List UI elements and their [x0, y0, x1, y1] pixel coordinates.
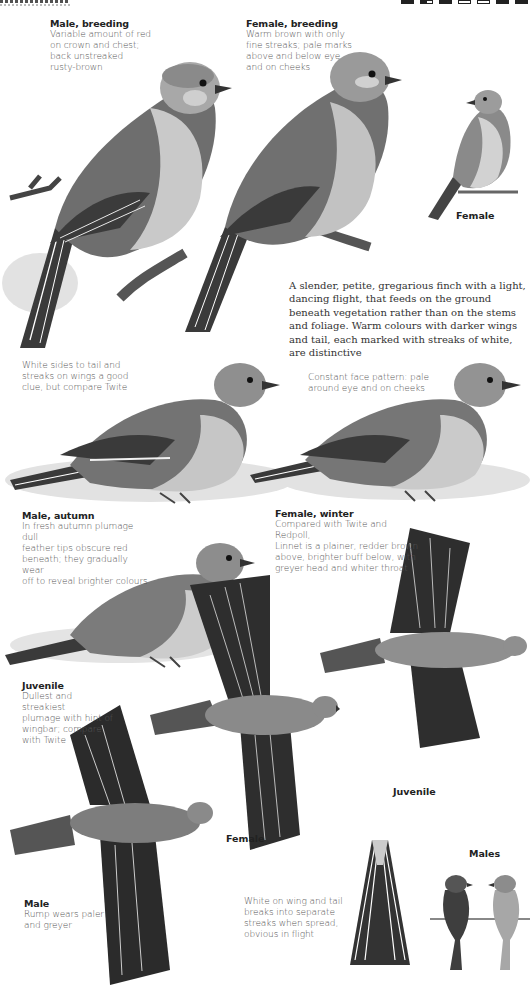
label-males: Males — [469, 848, 500, 859]
caption-body: In fresh autumn plumage dull feather tip… — [22, 521, 152, 587]
caption-title: Female, winter — [275, 508, 420, 519]
range-icon — [496, 0, 509, 4]
field-guide-page: Male, breeding Variable amount of red on… — [0, 0, 530, 988]
plumage-icon — [458, 0, 471, 4]
caption-wing-tail: White on wing and tail breaks into separ… — [244, 896, 344, 940]
caption-female-breeding: Female, breeding Warm brown with only fi… — [246, 18, 366, 73]
caption-title: Male, breeding — [50, 18, 160, 29]
illustration-spread-tail — [350, 840, 410, 970]
running-head-icons — [401, 0, 528, 4]
species-intro-text: A slender, petite, gregarious finch with… — [289, 279, 529, 359]
size-icon — [420, 0, 433, 4]
flight-icon — [439, 0, 452, 4]
habitat-icon — [401, 0, 414, 4]
label-female-flight: Female — [226, 833, 265, 844]
caption-title: Male, autumn — [22, 510, 152, 521]
caption-juvenile: Juvenile Dullest and streakiest plumage … — [22, 680, 117, 746]
running-head-subtext — [0, 4, 70, 6]
season-icon — [515, 0, 528, 4]
caption-title: Juvenile — [22, 680, 117, 691]
caption-title: Female, breeding — [246, 18, 366, 29]
caption-body: Variable amount of red on crown and ches… — [50, 29, 160, 73]
caption-body: Dullest and streakiest plumage with hint… — [22, 691, 117, 746]
caption-body: Rump wears paler and greyer — [24, 909, 114, 931]
label-female-perched: Female — [456, 210, 495, 221]
caption-face-pattern: Constant face pattern: pale around eye a… — [308, 372, 438, 394]
song-icon — [477, 0, 490, 4]
caption-body: Constant face pattern: pale around eye a… — [308, 372, 438, 394]
caption-male-breeding: Male, breeding Variable amount of red on… — [50, 18, 160, 73]
running-head — [0, 0, 530, 6]
caption-body: Warm brown with only fine streaks; pale … — [246, 29, 366, 73]
caption-body: White on wing and tail breaks into separ… — [244, 896, 344, 940]
caption-male-autumn: Male, autumn In fresh autumn plumage dul… — [22, 510, 152, 587]
running-head-text — [0, 0, 70, 3]
illustration-male-flight — [10, 705, 220, 985]
illustration-female-perched — [418, 82, 528, 222]
caption-body: Compared with Twite and Redpoll, Linnet … — [275, 519, 420, 574]
caption-white-sides: White sides to tail and streaks on wings… — [22, 360, 132, 393]
label-juvenile-flight: Juvenile — [393, 786, 436, 797]
illustration-males-pair — [430, 870, 530, 980]
caption-male-flight: Male Rump wears paler and greyer — [24, 898, 114, 931]
caption-body: White sides to tail and streaks on wings… — [22, 360, 132, 393]
caption-title: Male — [24, 898, 114, 909]
caption-female-winter: Female, winter Compared with Twite and R… — [275, 508, 420, 574]
